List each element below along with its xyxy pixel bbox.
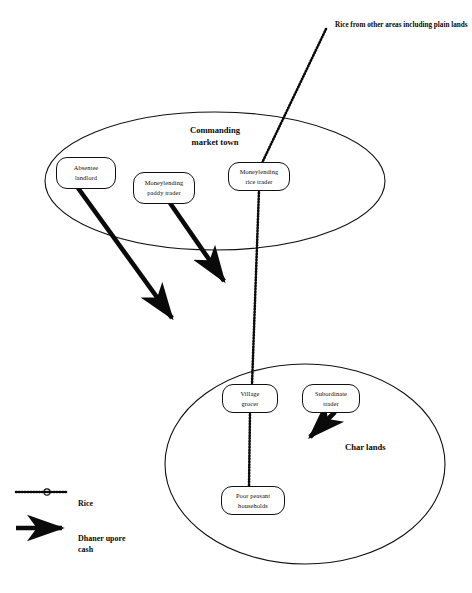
rice-flow-rice-trader-to-village-grocer xyxy=(252,190,259,385)
cash-arrow-subordinate-trader-to-peasants xyxy=(310,412,335,437)
legend-label-cash-text: Dhaner upore cash xyxy=(78,534,126,555)
external-rice-source-note-text: Rice from other areas including plain la… xyxy=(335,21,468,29)
legend-label-cash: Dhaner upore cash xyxy=(78,521,126,556)
node-label-line2: paddy trader xyxy=(147,188,180,198)
node-poor-peasant-households[interactable]: Poor peasant households xyxy=(221,486,285,515)
zone-label-line1: Commanding xyxy=(150,124,280,136)
node-absentee-landlord[interactable]: Absentee landlord xyxy=(56,157,116,189)
node-label-line2: rice trader xyxy=(245,177,272,187)
external-rice-source-note: Rice from other areas including plain la… xyxy=(335,20,468,31)
node-label-line2: trader xyxy=(323,399,339,409)
legend-rice-symbol-icon xyxy=(16,489,66,495)
cash-arrow-absentee-landlord-to-char-lands xyxy=(78,188,172,318)
node-label-line1: Absentee xyxy=(74,163,99,173)
legend-label-rice-text: Rice xyxy=(78,499,93,508)
node-label-line1: Subordinate xyxy=(315,389,347,399)
node-label-line1: Moneylending xyxy=(240,167,278,177)
node-label-line1: Village xyxy=(240,389,259,399)
zone-label-commanding-market-town: Commanding market town xyxy=(150,124,280,149)
node-label-line1: Poor peasant xyxy=(236,491,270,501)
node-label-line2: households xyxy=(238,501,268,511)
node-label-line1: Moneylending xyxy=(145,178,183,188)
cash-arrow-paddy-trader-to-char-lands xyxy=(170,203,224,281)
zone-label-line2: market town xyxy=(150,136,280,148)
node-moneylending-rice-trader[interactable]: Moneylending rice trader xyxy=(228,162,290,191)
diagram-canvas: Commanding market town Char lands Rice f… xyxy=(0,0,472,593)
zone-label-line1: Char lands xyxy=(345,441,425,453)
node-moneylending-paddy-trader[interactable]: Moneylending paddy trader xyxy=(133,172,195,204)
node-label-line2: grocer xyxy=(242,399,259,409)
legend-label-rice: Rice xyxy=(78,486,93,509)
rice-flow-village-grocer-to-poor-peasant-households xyxy=(249,412,250,487)
node-subordinate-trader[interactable]: Subordinate trader xyxy=(302,384,360,413)
node-label-line2: landlord xyxy=(75,173,97,183)
zone-label-char-lands: Char lands xyxy=(345,441,425,453)
node-village-grocer[interactable]: Village grocer xyxy=(222,384,278,413)
